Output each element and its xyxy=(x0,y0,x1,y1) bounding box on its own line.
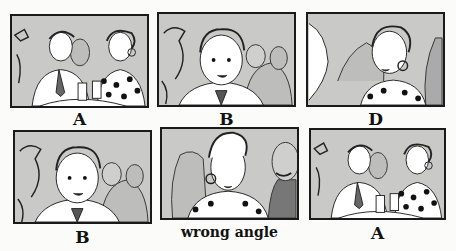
panel-caption: D xyxy=(306,110,445,128)
panel-caption: B xyxy=(13,228,152,246)
panel-caption: B xyxy=(157,110,296,128)
storyboard-panel-close-up xyxy=(157,12,296,107)
close-up-woman-illustration xyxy=(308,14,443,105)
storyboard-panel-wrong-angle xyxy=(160,127,299,220)
panel-caption: A xyxy=(309,224,446,242)
storyboard-panel-two-shot xyxy=(309,128,446,220)
close-up-man-illustration xyxy=(15,132,150,222)
two-shot-illustration xyxy=(12,16,147,106)
storyboard-panel-close-up xyxy=(306,12,445,107)
storyboard-panel-close-up xyxy=(13,130,152,224)
two-shot-illustration xyxy=(311,130,444,218)
close-up-man-illustration xyxy=(159,14,294,105)
storyboard-panel-two-shot xyxy=(10,14,149,108)
wrong-angle-woman-illustration xyxy=(162,129,297,218)
panel-caption: A xyxy=(10,110,149,128)
panel-caption: wrong angle xyxy=(160,223,299,241)
